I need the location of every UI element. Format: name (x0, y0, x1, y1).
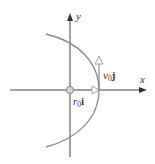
velocity-label: v0j (103, 69, 115, 83)
y-axis-arrowhead (67, 13, 73, 21)
position-vector-arrowhead (92, 86, 99, 94)
orbit-diagram: y x v0j r0i (0, 0, 155, 164)
velocity-unit-vector: j (111, 69, 116, 81)
origin-body (66, 86, 73, 93)
position-label: r0i (73, 95, 84, 109)
position-unit-vector: i (81, 95, 84, 107)
velocity-vector-arrowhead (95, 56, 103, 64)
y-axis-label: y (75, 10, 81, 22)
x-axis-label: x (139, 73, 145, 85)
x-axis-arrowhead (139, 87, 147, 93)
